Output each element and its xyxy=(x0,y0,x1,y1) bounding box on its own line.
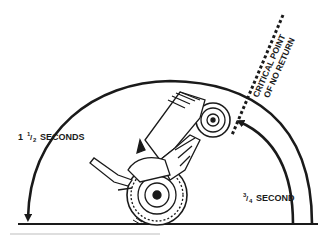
label-fraction-den: 4 xyxy=(249,198,253,204)
label-three-quarter-second: 3 / 4 SECOND xyxy=(243,192,295,204)
overturn-diagram: 1 1 / 2 SECONDS 3 / 4 SECOND CRITICAL PO… xyxy=(0,0,327,240)
label-whole: 1 xyxy=(18,132,23,142)
label-unit: SECONDS xyxy=(40,132,85,142)
tractor-illustration xyxy=(90,92,230,225)
inner-arc xyxy=(240,122,293,224)
tractor-drawbar xyxy=(90,158,132,186)
label-one-and-half-seconds: 1 1 / 2 SECONDS xyxy=(18,131,85,143)
label-fraction-den: 2 xyxy=(33,137,37,143)
label-unit: SECOND xyxy=(256,193,295,203)
label-critical-point: CRITICAL POINT OF NO RETURN xyxy=(251,32,297,103)
